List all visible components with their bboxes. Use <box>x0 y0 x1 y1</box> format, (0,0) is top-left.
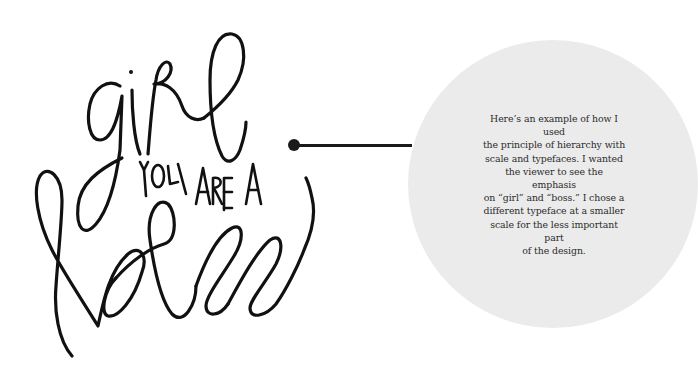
hand-lettering-svg: girl <box>0 0 340 386</box>
connector-line <box>294 144 412 147</box>
callout-connector <box>288 139 412 151</box>
callout-text: Here’s an example of how I used the prin… <box>482 112 626 257</box>
hand-lettering-artwork: girl <box>0 0 340 386</box>
